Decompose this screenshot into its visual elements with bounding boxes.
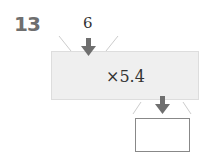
output-arrow-icon [155,96,170,114]
operation-label: ×5.4 [106,67,145,86]
input-arrow-icon [81,38,96,56]
answer-box[interactable] [135,118,190,152]
